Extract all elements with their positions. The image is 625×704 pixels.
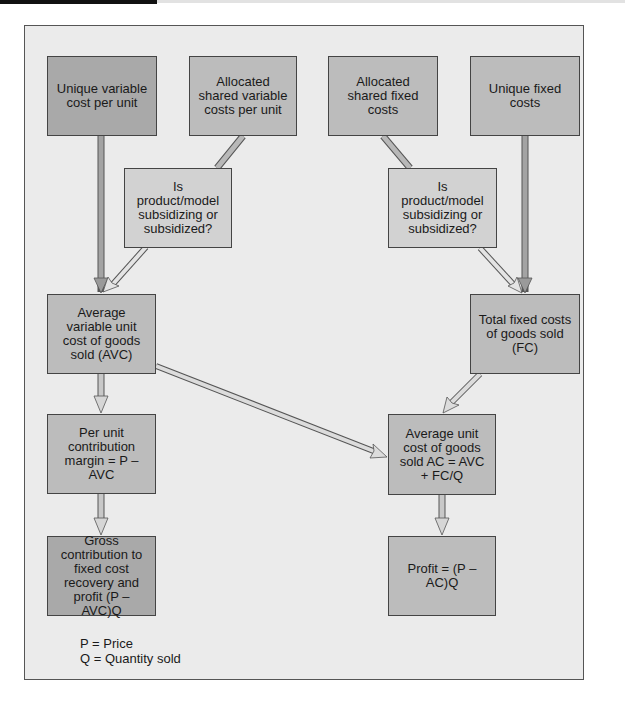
node-allocated-shared-fixed-costs: Allocated shared fixed costs (328, 56, 438, 136)
node-label: Is product/model subsidizing or subsidiz… (395, 180, 490, 236)
node-label: Profit = (P – AC)Q (395, 562, 489, 590)
node-label: Allocated shared variable costs per unit (196, 75, 290, 117)
node-average-unit-cost: Average unit cost of goods sold AC = AVC… (388, 414, 496, 495)
node-label: Is product/model subsidizing or subsidiz… (131, 180, 225, 236)
node-question-left: Is product/model subsidizing or subsidiz… (124, 168, 232, 248)
node-label: Total fixed costs of goods sold (FC) (477, 313, 573, 355)
node-profit: Profit = (P – AC)Q (388, 536, 496, 616)
node-label: Average unit cost of goods sold AC = AVC… (395, 427, 489, 483)
node-label: Gross contribution to fixed cost recover… (54, 534, 149, 618)
legend-price: P = Price (80, 636, 181, 651)
node-fc: Total fixed costs of goods sold (FC) (470, 294, 580, 374)
node-unique-fixed-costs: Unique fixed costs (470, 56, 580, 136)
legend: P = Price Q = Quantity sold (80, 636, 181, 666)
node-label: Per unit contribution margin = P – AVC (54, 426, 149, 482)
node-unique-variable-cost: Unique variable cost per unit (47, 56, 157, 136)
node-allocated-shared-variable-costs: Allocated shared variable costs per unit (189, 56, 297, 136)
node-label: Average variable unit cost of goods sold… (54, 306, 149, 362)
node-per-unit-contribution-margin: Per unit contribution margin = P – AVC (47, 414, 156, 494)
node-gross-contribution: Gross contribution to fixed cost recover… (47, 536, 156, 616)
node-avc: Average variable unit cost of goods sold… (47, 294, 156, 374)
node-label: Unique fixed costs (477, 82, 573, 110)
node-question-right: Is product/model subsidizing or subsidiz… (388, 168, 497, 248)
top-bar-light (157, 0, 625, 3)
node-label: Unique variable cost per unit (54, 82, 150, 110)
top-bar-dark (0, 0, 157, 4)
legend-quantity: Q = Quantity sold (80, 651, 181, 666)
node-label: Allocated shared fixed costs (335, 75, 431, 117)
